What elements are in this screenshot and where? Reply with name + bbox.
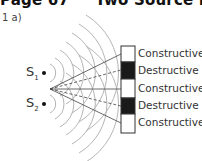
screen xyxy=(121,46,135,133)
band-label-3: Constructive xyxy=(138,82,202,94)
rays xyxy=(50,54,121,123)
wavefronts-s1 xyxy=(50,15,119,131)
band-label-5: Constructive xyxy=(138,116,202,128)
ray-destructive-top xyxy=(50,70,121,89)
band-label-2: Destructive xyxy=(138,64,199,76)
band-5 xyxy=(121,114,135,133)
ray-destructive-bottom xyxy=(50,89,121,106)
source-2-dot xyxy=(42,102,46,106)
source-1-label: S1 xyxy=(26,64,39,82)
source-2-label: S2 xyxy=(26,95,39,113)
band-3 xyxy=(121,79,135,98)
band-label-1: Constructive xyxy=(138,47,202,59)
band-label-4: Destructive xyxy=(138,99,199,111)
band-4 xyxy=(121,98,135,114)
source-1-dot xyxy=(42,71,46,75)
band-2 xyxy=(121,62,135,79)
band-1 xyxy=(121,46,135,62)
